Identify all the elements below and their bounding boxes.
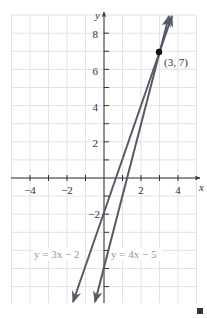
line-chart: −4 −2 2 4 8 6 4 2 −2 x y (3, 7) y = 3x −… bbox=[0, 0, 207, 318]
y-tick-label: 2 bbox=[93, 137, 99, 149]
intersection-point bbox=[156, 49, 162, 55]
equation-label-2: y = 4x − 5 bbox=[111, 248, 157, 260]
y-tick-label: 6 bbox=[93, 65, 99, 77]
equation-label-1: y = 3x − 2 bbox=[34, 248, 79, 260]
point-label: (3, 7) bbox=[164, 56, 188, 69]
y-tick-label: −2 bbox=[88, 208, 100, 220]
x-tick-label: 2 bbox=[138, 184, 144, 196]
x-tick-label: 4 bbox=[175, 184, 181, 196]
x-axis-label: x bbox=[198, 181, 204, 193]
x-tick-label: −2 bbox=[61, 184, 73, 196]
y-tick-label: 4 bbox=[93, 101, 99, 113]
y-axis-label: y bbox=[94, 9, 100, 21]
end-marker-icon bbox=[197, 308, 203, 314]
y-tick-label: 8 bbox=[93, 28, 99, 40]
x-tick-label: −4 bbox=[24, 184, 36, 196]
